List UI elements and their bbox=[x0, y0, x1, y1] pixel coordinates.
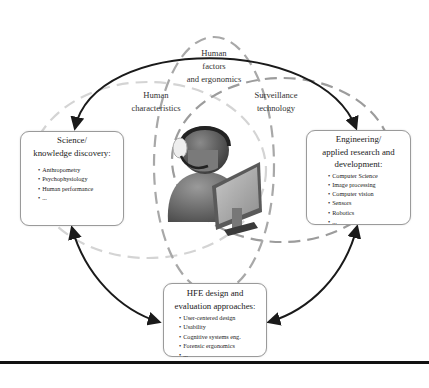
title-line: Science/ bbox=[21, 134, 123, 147]
label-human-factors-ergonomics: Human factors and ergonomics bbox=[172, 47, 256, 86]
label-line: Human bbox=[172, 47, 256, 60]
box-engineering-applied-research: Engineering/ applied research and develo… bbox=[306, 130, 411, 225]
list-item: Human performance bbox=[38, 184, 123, 193]
list-item: Cognitive systems eng. bbox=[179, 332, 266, 341]
list-item: Forensic ergonomics bbox=[179, 341, 266, 350]
operator-at-computer-icon bbox=[168, 126, 262, 236]
box-list: Computer Science Image processing Comput… bbox=[328, 171, 410, 227]
list-item: Anthropometry bbox=[38, 165, 123, 174]
label-human-characteristics: Human characteristics bbox=[118, 89, 194, 115]
title-line: knowledge discovery: bbox=[21, 147, 123, 160]
label-line: characteristics bbox=[118, 102, 194, 115]
label-line: Human bbox=[118, 89, 194, 102]
list-item: Computer Science bbox=[328, 171, 410, 180]
bottom-rule bbox=[0, 361, 429, 364]
label-line: technology bbox=[243, 102, 309, 115]
list-item: Psychophysiology bbox=[38, 174, 123, 183]
label-surveillance-technology: Surveillance technology bbox=[243, 89, 309, 115]
box-list: Anthropometry Psychophysiology Human per… bbox=[38, 165, 123, 202]
list-item: ... bbox=[328, 217, 410, 226]
list-item: Image processing bbox=[328, 180, 410, 189]
title-line: development: bbox=[307, 158, 410, 171]
list-item: ... bbox=[38, 193, 123, 202]
label-line: Surveillance bbox=[243, 89, 309, 102]
list-item: Sensors bbox=[328, 198, 410, 207]
title-line: applied research and bbox=[307, 146, 410, 159]
label-line: and ergonomics bbox=[172, 73, 256, 86]
label-line: factors bbox=[172, 60, 256, 73]
arrow-engineering-hfe bbox=[269, 227, 357, 322]
list-item: Computer vision bbox=[328, 189, 410, 198]
box-list: User-centered design Usability Cognitive… bbox=[179, 313, 266, 359]
list-item: ... bbox=[179, 350, 266, 359]
box-hfe-design-evaluation: HFE design and evaluation approaches: Us… bbox=[163, 283, 267, 357]
list-item: User-centered design bbox=[179, 313, 266, 322]
box-title: Science/ knowledge discovery: bbox=[21, 134, 123, 159]
title-line: evaluation approaches: bbox=[164, 300, 266, 313]
list-item: Robotics bbox=[328, 208, 410, 217]
list-item: Usability bbox=[179, 322, 266, 331]
title-line: HFE design and bbox=[164, 287, 266, 300]
arrow-science-hfe bbox=[72, 228, 159, 322]
box-title: HFE design and evaluation approaches: bbox=[164, 287, 266, 312]
box-science-knowledge-discovery: Science/ knowledge discovery: Anthropome… bbox=[20, 131, 124, 226]
title-line: Engineering/ bbox=[307, 133, 410, 146]
box-title: Engineering/ applied research and develo… bbox=[307, 133, 410, 171]
